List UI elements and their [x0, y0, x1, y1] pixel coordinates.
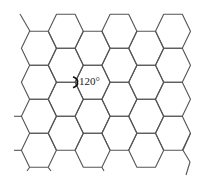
edge-stub — [48, 167, 51, 171]
hexagon-cell — [156, 82, 191, 116]
edge-stub — [102, 167, 104, 171]
hexagon-cell — [156, 48, 191, 82]
hexagon-cell — [156, 14, 191, 48]
hexagon-lattice-diagram — [0, 0, 210, 183]
hexagon-cells — [21, 14, 190, 167]
edge-stub — [20, 14, 30, 31]
edge-stub — [183, 133, 191, 175]
edge-stub — [27, 167, 30, 171]
angle-label: 120° — [79, 75, 100, 87]
